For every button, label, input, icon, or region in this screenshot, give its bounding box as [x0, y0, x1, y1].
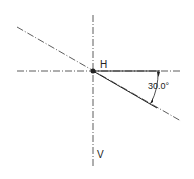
label-angle: 30.0°: [148, 81, 170, 91]
label-h: H: [100, 59, 107, 70]
origin-point: [91, 69, 96, 74]
label-v: V: [97, 149, 104, 160]
arc-arrow-top-icon: [157, 72, 160, 77]
angle-diagram: H 30.0° V: [0, 0, 194, 179]
